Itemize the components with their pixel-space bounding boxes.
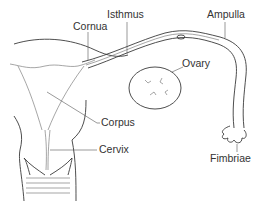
uterine-cavity bbox=[18, 66, 84, 130]
vaginal-fornix-right bbox=[50, 158, 72, 175]
uterus-left-wall bbox=[14, 116, 24, 201]
ovary-texture bbox=[145, 78, 168, 95]
label-cornua: Cornua bbox=[73, 20, 108, 32]
label-ampulla: Ampulla bbox=[207, 8, 245, 20]
leader-corpus bbox=[47, 92, 100, 123]
diagram-canvas: Cornua Isthmus Ampulla Ovary Corpus Cerv… bbox=[0, 0, 260, 201]
fimbriae-shape bbox=[222, 126, 246, 143]
ampulla-marker bbox=[177, 35, 185, 39]
ovary-shape bbox=[129, 67, 181, 109]
anatomy-diagram: Cornua Isthmus Ampulla Ovary Corpus Cerv… bbox=[0, 0, 260, 201]
outer-contour-top bbox=[14, 39, 128, 56]
label-cervix: Cervix bbox=[99, 143, 130, 155]
label-ovary: Ovary bbox=[182, 57, 211, 69]
label-fimbriae: Fimbriae bbox=[210, 152, 251, 164]
label-corpus: Corpus bbox=[101, 116, 135, 128]
vaginal-fornix-left bbox=[24, 158, 45, 175]
label-isthmus: Isthmus bbox=[107, 8, 144, 20]
fallopian-tube-inner bbox=[88, 37, 236, 128]
uterus-fundus bbox=[10, 60, 95, 68]
vaginal-rugae bbox=[26, 178, 70, 193]
cervical-canal bbox=[45, 130, 50, 170]
